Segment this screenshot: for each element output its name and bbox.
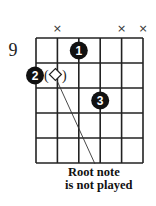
finger-dot-3: 3 (91, 92, 109, 110)
start-fret-label: 9 (9, 40, 18, 60)
paren-left: ( (44, 68, 49, 84)
finger-dot-1: 1 (70, 42, 88, 60)
diamond-icon (49, 69, 61, 81)
finger-number: 2 (32, 69, 39, 83)
unplayed-root-marker: ( ) (44, 68, 67, 84)
finger-number: 3 (97, 94, 104, 108)
annotation-leader-line (57, 82, 95, 165)
mute-x-icon: × (53, 22, 62, 35)
muted-strings: ××× (53, 22, 148, 35)
finger-dot-2: 2 (26, 67, 44, 85)
finger-dots: 123 (26, 42, 109, 110)
paren-right: ) (62, 68, 67, 84)
mute-x-icon: × (117, 22, 126, 35)
annotation-line-1: Root note (68, 165, 120, 179)
finger-number: 1 (75, 44, 82, 58)
fretboard-grid (36, 38, 143, 163)
annotation-line-2: is not played (65, 178, 132, 192)
chord-diagram: 9 ××× ( ) 123 Root note is not played (0, 0, 156, 206)
mute-x-icon: × (138, 22, 147, 35)
